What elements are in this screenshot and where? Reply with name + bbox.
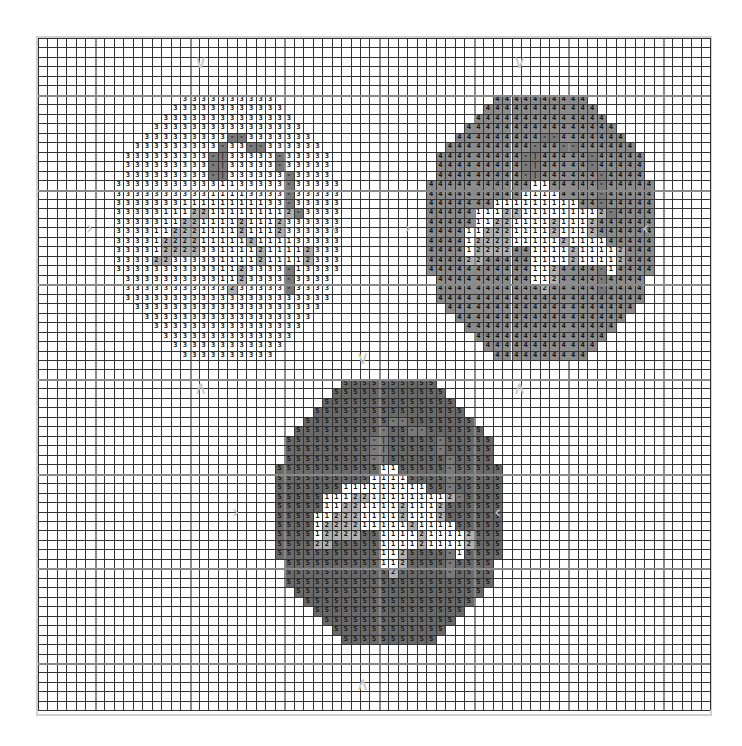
stitch-cell: 5 <box>398 398 407 408</box>
stitch-cell: 1 <box>341 493 350 503</box>
stitch-cell: 3 <box>133 199 142 209</box>
stitch-cell: 3 <box>218 123 227 133</box>
stitch-cell: 4 <box>587 114 596 124</box>
stitch-cell: 1 <box>587 208 596 218</box>
stitch-cell: 3 <box>275 133 284 143</box>
stitch-cell: 5 <box>322 587 331 597</box>
stitch-cell: - <box>445 483 454 493</box>
stitch-cell: 1 <box>549 256 558 266</box>
stitch-cell: 1 <box>246 208 255 218</box>
grid-line-horizontal <box>38 682 710 683</box>
stitch-cell: 3 <box>218 351 227 361</box>
stitch-cell: 4 <box>540 303 549 313</box>
stitch-cell: 3 <box>142 180 151 190</box>
stitch-cell: 4 <box>445 161 454 171</box>
stitch-cell: - <box>237 133 246 143</box>
stitch-cell: 1 <box>417 483 426 493</box>
stitch-cell: 5 <box>369 625 378 635</box>
stitch-cell: 3 <box>294 218 303 228</box>
stitch-cell: 3 <box>152 208 161 218</box>
stitch-cell: 2 <box>180 237 189 247</box>
grid-line-horizontal <box>38 644 710 645</box>
stitch-cell: 4 <box>578 133 587 143</box>
stitch-cell: 1 <box>275 208 284 218</box>
stitch-cell: 1 <box>227 275 236 285</box>
stitch-cell: 3 <box>322 199 331 209</box>
stitch-cell: 4 <box>530 133 539 143</box>
stitch-cell: 2 <box>502 218 511 228</box>
stitch-cell: 4 <box>445 180 454 190</box>
grid-line-horizontal <box>38 351 710 352</box>
stitch-cell: 3 <box>237 104 246 114</box>
grid-line-vertical <box>635 38 636 710</box>
stitch-cell: 5 <box>436 483 445 493</box>
grid-line-vertical <box>256 38 257 710</box>
stitch-cell: 4 <box>493 256 502 266</box>
stitch-cell: 5 <box>322 578 331 588</box>
stitch-cell: 5 <box>303 502 312 512</box>
stitch-cell: 3 <box>171 104 180 114</box>
stitch-cell: 3 <box>133 161 142 171</box>
stitch-cell: 3 <box>171 332 180 342</box>
grid-line-vertical <box>587 38 588 710</box>
stitch-cell: 3 <box>246 322 255 332</box>
stitch-cell: 5 <box>407 606 416 616</box>
stitch-cell: 1 <box>436 493 445 503</box>
stitch-cell: 5 <box>275 521 284 531</box>
stitch-cell: 3 <box>256 275 265 285</box>
stitch-cell: 5 <box>351 587 360 597</box>
center-marker-arrow-down-icon: ∨ <box>194 53 207 71</box>
stitch-cell: 1 <box>275 237 284 247</box>
stitch-cell: 3 <box>275 322 284 332</box>
stitch-cell: 1 <box>398 530 407 540</box>
stitch-cell: 4 <box>559 341 568 351</box>
stitch-cell: - <box>597 180 606 190</box>
stitch-cell: 5 <box>398 578 407 588</box>
stitch-cell: 3 <box>227 123 236 133</box>
stitch-cell: 3 <box>218 313 227 323</box>
stitch-cell: 2 <box>417 540 426 550</box>
stitch-cell: 5 <box>388 388 397 398</box>
stitch-cell: 1 <box>161 208 170 218</box>
stitch-cell: 5 <box>483 578 492 588</box>
stitch-cell: 5 <box>455 578 464 588</box>
stitch-cell: 1 <box>218 265 227 275</box>
grid-line-horizontal <box>38 66 710 67</box>
stitch-cell: 4 <box>502 303 511 313</box>
stitch-cell: 3 <box>227 114 236 124</box>
stitch-cell: 5 <box>332 426 341 436</box>
stitch-cell: 5 <box>294 512 303 522</box>
stitch-cell: 4 <box>597 142 606 152</box>
stitch-cell: 3 <box>303 218 312 228</box>
stitch-cell: 5 <box>294 436 303 446</box>
stitch-cell: 3 <box>294 152 303 162</box>
stitch-cell: 5 <box>426 559 435 569</box>
stitch-cell: 5 <box>322 407 331 417</box>
stitch-cell: 4 <box>436 237 445 247</box>
stitch-cell: 1 <box>322 502 331 512</box>
stitch-cell: 4 <box>455 227 464 237</box>
stitch-cell: - <box>369 445 378 455</box>
stitch-cell: 5 <box>426 398 435 408</box>
stitch-cell: 4 <box>616 237 625 247</box>
stitch-cell: 5 <box>417 578 426 588</box>
stitch-cell: 3 <box>303 133 312 143</box>
stitch-cell: 5 <box>360 616 369 626</box>
stitch-cell: 1 <box>530 246 539 256</box>
stitch-cell: 4 <box>549 303 558 313</box>
stitch-cell: 4 <box>549 351 558 361</box>
stitch-cell: 1 <box>407 502 416 512</box>
stitch-cell: 4 <box>455 133 464 143</box>
stitch-cell: 5 <box>332 540 341 550</box>
stitch-cell: 2 <box>493 218 502 228</box>
stitch-cell: 5 <box>294 578 303 588</box>
stitch-cell: 5 <box>332 483 341 493</box>
stitch-cell: 4 <box>464 180 473 190</box>
stitch-cell: 4 <box>512 341 521 351</box>
stitch-cell: 1 <box>540 275 549 285</box>
stitch-cell: 4 <box>464 322 473 332</box>
stitch-cell: 1 <box>227 180 236 190</box>
grid-line-horizontal <box>38 180 710 181</box>
stitch-cell: 5 <box>341 559 350 569</box>
stitch-cell: 4 <box>597 303 606 313</box>
